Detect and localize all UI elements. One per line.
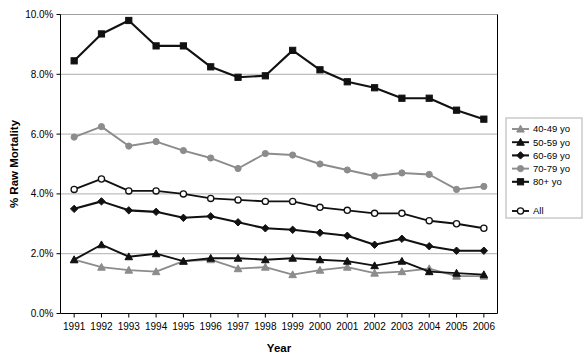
xtick-label-2002: 2002 xyxy=(363,321,386,332)
xtick-label-1998: 1998 xyxy=(254,321,277,332)
xtick-label-1991: 1991 xyxy=(63,321,86,332)
data-point xyxy=(426,218,432,224)
data-point xyxy=(344,79,350,85)
ytick-label-8: 8.0% xyxy=(31,69,54,80)
xtick-label-2000: 2000 xyxy=(309,321,332,332)
data-point xyxy=(453,107,459,113)
data-point xyxy=(317,67,323,73)
chart-svg: 0.0%2.0%4.0%6.0%8.0%10.0%199119921993199… xyxy=(0,0,588,360)
xtick-label-1993: 1993 xyxy=(118,321,141,332)
data-point xyxy=(481,116,487,122)
ytick-label-10: 10.0% xyxy=(25,9,53,20)
xtick-label-1999: 1999 xyxy=(282,321,305,332)
xtick-label-1996: 1996 xyxy=(200,321,223,332)
data-point xyxy=(481,183,487,189)
data-point xyxy=(371,173,377,179)
xtick-label-2001: 2001 xyxy=(336,321,359,332)
legend-label: 70-79 yo xyxy=(533,163,570,174)
xtick-label-2006: 2006 xyxy=(473,321,496,332)
xtick-label-1997: 1997 xyxy=(227,321,250,332)
data-point xyxy=(153,138,159,144)
data-point xyxy=(290,198,296,204)
xtick-label-2003: 2003 xyxy=(391,321,414,332)
data-point xyxy=(399,170,405,176)
data-point xyxy=(98,176,104,182)
legend-label: All xyxy=(533,205,544,216)
xtick-label-2004: 2004 xyxy=(418,321,441,332)
ytick-label-0: 0.0% xyxy=(31,308,54,319)
data-point xyxy=(453,221,459,227)
data-point xyxy=(317,161,323,167)
data-point xyxy=(344,167,350,173)
data-point xyxy=(153,43,159,49)
data-point xyxy=(71,186,77,192)
data-point xyxy=(180,147,186,153)
mortality-line-chart: 0.0%2.0%4.0%6.0%8.0%10.0%199119921993199… xyxy=(0,0,588,360)
data-point xyxy=(71,134,77,140)
data-point xyxy=(399,95,405,101)
data-point xyxy=(262,150,268,156)
data-point xyxy=(208,64,214,70)
data-point xyxy=(71,58,77,64)
xtick-label-2005: 2005 xyxy=(445,321,468,332)
legend-label: 80+ yo xyxy=(533,176,562,187)
data-point xyxy=(426,95,432,101)
data-point xyxy=(371,210,377,216)
data-point xyxy=(426,171,432,177)
data-point xyxy=(98,31,104,37)
legend-marker xyxy=(517,179,523,185)
data-point xyxy=(371,85,377,91)
data-point xyxy=(208,155,214,161)
data-point xyxy=(126,17,132,23)
data-point xyxy=(262,73,268,79)
data-point xyxy=(235,197,241,203)
legend-label: 50-59 yo xyxy=(533,137,570,148)
data-point xyxy=(126,188,132,194)
legend-marker xyxy=(517,208,523,214)
data-point xyxy=(98,124,104,130)
xtick-label-1995: 1995 xyxy=(172,321,195,332)
xtick-label-1992: 1992 xyxy=(90,321,113,332)
data-point xyxy=(235,74,241,80)
ytick-label-4: 4.0% xyxy=(31,188,54,199)
data-point xyxy=(399,210,405,216)
data-point xyxy=(126,143,132,149)
legend-label: 60-69 yo xyxy=(533,150,570,161)
ytick-label-2: 2.0% xyxy=(31,248,54,259)
ytick-label-6: 6.0% xyxy=(31,129,54,140)
legend-label: 40-49 yo xyxy=(533,123,570,134)
data-point xyxy=(153,188,159,194)
data-point xyxy=(180,43,186,49)
data-point xyxy=(317,204,323,210)
data-point xyxy=(290,47,296,53)
legend-marker xyxy=(517,166,523,172)
legend-entry-60-69-yo[interactable]: 60-69 yo xyxy=(512,150,570,161)
data-point xyxy=(180,191,186,197)
x-axis-title: Year xyxy=(267,342,292,354)
data-point xyxy=(481,225,487,231)
data-point xyxy=(453,186,459,192)
data-point xyxy=(344,207,350,213)
y-axis-title: % Raw Mortality xyxy=(8,119,20,208)
data-point xyxy=(235,165,241,171)
xtick-label-1994: 1994 xyxy=(145,321,168,332)
data-point xyxy=(290,152,296,158)
data-point xyxy=(208,195,214,201)
data-point xyxy=(262,198,268,204)
